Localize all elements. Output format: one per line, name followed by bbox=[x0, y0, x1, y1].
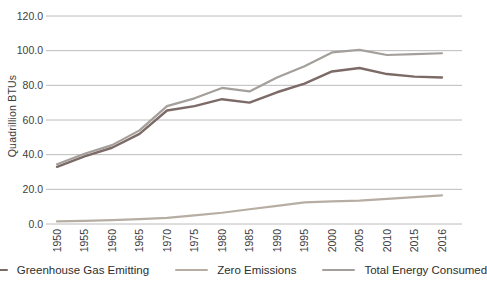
svg-text:2016: 2016 bbox=[436, 229, 448, 253]
svg-text:20.0: 20.0 bbox=[23, 183, 44, 195]
legend-label-zero-emissions: Zero Emissions bbox=[217, 264, 296, 276]
svg-text:0.0: 0.0 bbox=[28, 218, 43, 230]
svg-text:100.0: 100.0 bbox=[17, 44, 43, 56]
svg-text:1975: 1975 bbox=[188, 229, 200, 253]
svg-text:1990: 1990 bbox=[271, 229, 283, 253]
svg-text:2005: 2005 bbox=[353, 229, 365, 253]
legend-item-greenhouse-gas-emitting: Greenhouse Gas Emitting bbox=[0, 264, 149, 276]
svg-text:1980: 1980 bbox=[216, 229, 228, 253]
legend-swatch-greenhouse-gas-emitting bbox=[0, 269, 8, 272]
svg-text:1985: 1985 bbox=[243, 229, 255, 253]
plot-area: 0.020.040.060.080.0100.0120.019501955196… bbox=[0, 0, 462, 256]
legend-swatch-total-energy-consumed bbox=[322, 269, 355, 272]
legend-item-total-energy-consumed: Total Energy Consumed bbox=[322, 264, 487, 276]
svg-text:40.0: 40.0 bbox=[23, 148, 44, 160]
svg-text:2010: 2010 bbox=[381, 229, 393, 253]
legend-label-greenhouse-gas-emitting: Greenhouse Gas Emitting bbox=[17, 264, 149, 276]
svg-text:80.0: 80.0 bbox=[23, 79, 44, 91]
svg-text:60.0: 60.0 bbox=[23, 114, 44, 126]
svg-text:1955: 1955 bbox=[78, 229, 90, 253]
svg-text:120.0: 120.0 bbox=[17, 10, 43, 22]
svg-text:2000: 2000 bbox=[326, 229, 338, 253]
svg-text:2015: 2015 bbox=[408, 229, 420, 253]
legend-item-zero-emissions: Zero Emissions bbox=[175, 264, 296, 276]
legend-swatch-zero-emissions bbox=[175, 269, 208, 272]
svg-text:1950: 1950 bbox=[51, 229, 63, 253]
svg-text:1995: 1995 bbox=[298, 229, 310, 253]
svg-text:1965: 1965 bbox=[133, 229, 145, 253]
svg-text:1960: 1960 bbox=[106, 229, 118, 253]
chart-legend: Greenhouse Gas Emitting Zero Emissions T… bbox=[0, 261, 462, 279]
legend-label-total-energy-consumed: Total Energy Consumed bbox=[364, 264, 487, 276]
svg-text:1970: 1970 bbox=[161, 229, 173, 253]
